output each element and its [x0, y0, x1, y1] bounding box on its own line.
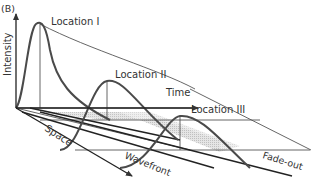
- location-3-label: Location III: [191, 104, 245, 115]
- wave-propagation-diagram: (B) Intensity Time Space Location I Loca…: [0, 0, 312, 183]
- location-1-label: Location I: [51, 16, 99, 27]
- panel-label: (B): [1, 3, 15, 14]
- location-2-label: Location II: [115, 69, 166, 80]
- time-label: Time: [165, 87, 190, 98]
- fadeout-label: Fade-out: [261, 149, 304, 172]
- intensity-label: Intensity: [2, 32, 13, 76]
